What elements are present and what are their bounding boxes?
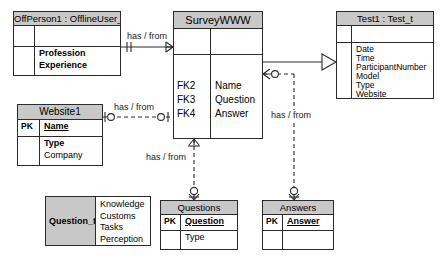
attribute-company: Company (44, 150, 100, 162)
entity-surveywww-key-row (174, 29, 262, 55)
attribute-perception: Perception (100, 234, 148, 246)
attribute-tasks: Tasks (100, 222, 148, 234)
attr-cell: Type (181, 231, 237, 249)
attr-cell: Profession Experience (35, 47, 120, 75)
entity-offperson1-attr-row: Profession Experience (14, 47, 120, 75)
relationship-label-website-survey: has / from (113, 102, 155, 112)
entity-test1[interactable]: Test1 : Test_t Date Time ParticipantNumb… (336, 11, 434, 99)
key-cell (337, 26, 352, 42)
entity-offperson1-title: OffPerson1 : OfflineUser_t (14, 12, 120, 26)
attr-cell: Knowledge Customs Tasks Perception (96, 197, 150, 245)
entity-website1[interactable]: Website1 PK Name Type Company (17, 104, 103, 166)
key-attr-cell (352, 26, 433, 42)
relationship-label-survey-test: has / from (270, 110, 312, 120)
entity-questions-pk-row: PK Question (161, 215, 237, 231)
fk-label-fk3: FK3 (177, 93, 208, 107)
pk-attr: Question (181, 215, 237, 230)
attribute-customs: Customs (100, 211, 148, 223)
entity-surveywww[interactable]: SurveyWWW FK2 FK3 FK4 Name Question Answ… (173, 11, 263, 139)
pk-attr: Answer (283, 215, 333, 230)
fk-label-fk4: FK4 (177, 107, 208, 121)
entity-website1-title: Website1 (18, 105, 102, 120)
attr-key-cell (263, 231, 283, 249)
entity-test1-key-row (337, 26, 433, 43)
attribute-website: Website (356, 90, 431, 98)
entity-answers-attr-row (263, 231, 333, 249)
entity-answers-title: Answers (263, 201, 333, 215)
entity-surveywww-fk-row: FK2 FK3 FK4 Name Question Answer (174, 55, 262, 138)
pk-attr: Name (40, 120, 102, 136)
entity-answers[interactable]: Answers PK Answer (262, 200, 334, 250)
entity-test1-attr-row: Date Time ParticipantNumber Model Type W… (337, 43, 433, 98)
fk-label-fk2: FK2 (177, 79, 208, 93)
attr-key-cell (337, 43, 352, 98)
attr-key-cell (14, 47, 35, 75)
relationship-label-survey-questions: has / from (145, 152, 187, 162)
attribute-question: Question (215, 93, 260, 107)
attr-cell: Date Time ParticipantNumber Model Type W… (352, 43, 433, 98)
entity-offperson1[interactable]: OffPerson1 : OfflineUser_t Profession Ex… (13, 11, 121, 76)
key-cell (14, 26, 35, 46)
entity-surveywww-title: SurveyWWW (174, 12, 262, 29)
pk-label: PK (161, 215, 181, 230)
attr-cell: Type Company (40, 137, 102, 166)
pk-label: PK (263, 215, 283, 230)
entity-questions[interactable]: Questions PK Question Type (160, 200, 238, 250)
entity-website1-attr-row: Type Company (18, 137, 102, 166)
attribute-experience: Experience (39, 60, 118, 72)
entity-question-t-title: Question_t (46, 197, 96, 245)
entity-question-t[interactable]: Question_t Knowledge Customs Tasks Perce… (45, 196, 151, 246)
attribute-profession: Profession (39, 48, 118, 60)
entity-questions-attr-row: Type (161, 231, 237, 249)
entity-answers-pk-row: PK Answer (263, 215, 333, 231)
attribute-type: Type (44, 138, 100, 150)
relationship-label-offperson-survey: has / from (126, 31, 168, 41)
attribute-knowledge: Knowledge (100, 199, 148, 211)
key-cell (174, 29, 211, 54)
entity-website1-pk-row: PK Name (18, 120, 102, 137)
key-attr-cell (35, 26, 120, 46)
attr-key-cell (161, 231, 181, 249)
attribute-answer: Answer (215, 107, 260, 121)
pk-label: PK (18, 120, 40, 136)
fk-label-cell: FK2 FK3 FK4 (174, 55, 211, 138)
attribute-name: Name (215, 79, 260, 93)
entity-question-t-row: Question_t Knowledge Customs Tasks Perce… (46, 197, 150, 245)
attr-key-cell (18, 137, 40, 166)
attr-cell (283, 231, 333, 249)
entity-questions-title: Questions (161, 201, 237, 215)
fk-attr-cell: Name Question Answer (211, 55, 262, 138)
entity-test1-title: Test1 : Test_t (337, 12, 433, 26)
entity-offperson1-key-row (14, 26, 120, 47)
attribute-type: Type (185, 232, 235, 244)
key-attr-cell (211, 29, 262, 54)
